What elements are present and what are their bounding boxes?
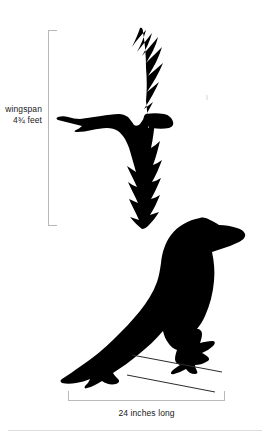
length-bracket-left-tick	[68, 391, 69, 401]
artifact-speck	[206, 95, 208, 100]
length-bracket-right-tick	[224, 391, 225, 401]
raven-size-infographic: wingspan 4¾ feet 24 inches long	[0, 0, 269, 435]
length-bracket-stem	[68, 400, 225, 401]
perch-twigs	[0, 0, 269, 435]
length-label: 24 inches long	[68, 408, 225, 419]
footer-divider	[8, 430, 262, 431]
